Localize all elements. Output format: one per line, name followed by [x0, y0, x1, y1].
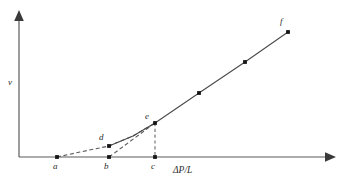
data-point-marker	[197, 91, 201, 95]
y-axis-title: v	[8, 78, 12, 87]
series-bingham-extrapolation-dashed	[109, 123, 155, 157]
x-axis-arrowhead	[325, 152, 336, 162]
series-linear-flow-solid	[155, 32, 288, 123]
data-point-marker	[107, 144, 111, 148]
series-yield-region-solid-overlay	[109, 123, 155, 146]
point-label-b: b	[104, 162, 109, 171]
point-label-a: a	[53, 162, 58, 171]
y-axis-arrowhead	[14, 10, 24, 21]
data-point-marker	[55, 155, 59, 159]
point-label-d: d	[99, 133, 104, 142]
point-label-c: c	[151, 162, 155, 171]
data-point-marker	[286, 30, 290, 34]
point-label-f: f	[280, 17, 283, 26]
rheogram-figure: ΔP/L v abcdef	[0, 0, 344, 187]
data-point-marker	[243, 60, 247, 64]
x-axis-title: ΔP/L	[173, 166, 192, 176]
series-yield-region-dashed-curve	[57, 123, 155, 157]
point-label-e: e	[145, 112, 149, 121]
data-point-marker	[107, 155, 111, 159]
series-group	[57, 32, 288, 157]
marker-group	[55, 30, 290, 159]
data-point-marker	[153, 121, 157, 125]
plot-canvas	[0, 0, 344, 187]
data-point-marker	[153, 155, 157, 159]
